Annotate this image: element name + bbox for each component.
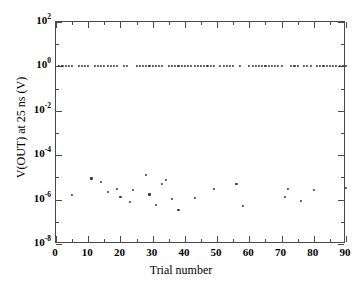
y-tick-minor bbox=[56, 89, 59, 90]
data-point bbox=[300, 200, 302, 202]
x-axis-title: Trial number bbox=[0, 263, 362, 278]
x-tick-minor bbox=[104, 22, 105, 25]
data-point bbox=[255, 65, 257, 67]
data-point bbox=[310, 65, 312, 67]
x-tick-label: 70 bbox=[264, 246, 298, 258]
x-tick-minor bbox=[137, 22, 138, 25]
y-tick-minor bbox=[56, 222, 59, 223]
y-tick-major bbox=[338, 244, 344, 245]
data-point bbox=[219, 65, 221, 67]
scatter-plot-figure: V(OUT) at 25 ns (V) Trial number 1021001… bbox=[0, 0, 362, 288]
data-point bbox=[194, 197, 196, 199]
data-point bbox=[258, 65, 260, 67]
y-tick-minor bbox=[56, 133, 59, 134]
x-tick-major bbox=[88, 236, 89, 242]
y-tick-minor bbox=[56, 44, 59, 45]
y-tick-major bbox=[338, 22, 344, 23]
data-point bbox=[132, 189, 134, 191]
data-point bbox=[119, 196, 121, 198]
data-point bbox=[71, 65, 73, 67]
data-point bbox=[123, 65, 125, 67]
x-tick-label: 40 bbox=[167, 246, 201, 258]
data-point bbox=[129, 201, 131, 203]
data-point bbox=[316, 65, 318, 67]
data-point bbox=[313, 189, 315, 191]
data-point bbox=[177, 209, 179, 211]
data-point bbox=[126, 65, 128, 67]
data-point bbox=[203, 65, 205, 67]
x-tick-major bbox=[88, 22, 89, 28]
data-point bbox=[81, 65, 83, 67]
data-point bbox=[213, 188, 215, 190]
data-point bbox=[248, 65, 250, 67]
x-tick-minor bbox=[330, 22, 331, 25]
x-tick-major bbox=[185, 236, 186, 242]
x-tick-minor bbox=[265, 239, 266, 242]
data-point bbox=[136, 65, 138, 67]
data-point bbox=[116, 65, 118, 67]
data-point bbox=[223, 65, 225, 67]
y-tick-minor bbox=[341, 44, 344, 45]
data-point bbox=[235, 183, 237, 185]
data-point bbox=[297, 65, 299, 67]
data-point bbox=[242, 205, 244, 207]
data-point bbox=[274, 65, 276, 67]
x-tick-label: 10 bbox=[70, 246, 104, 258]
data-point bbox=[190, 65, 192, 67]
data-point bbox=[264, 65, 266, 67]
data-point bbox=[161, 183, 163, 185]
x-tick-major bbox=[120, 236, 121, 242]
data-point bbox=[287, 188, 289, 190]
data-point bbox=[97, 65, 99, 67]
data-point bbox=[110, 65, 112, 67]
data-point bbox=[184, 65, 186, 67]
data-point bbox=[229, 65, 231, 67]
x-tick-minor bbox=[169, 22, 170, 25]
data-point bbox=[68, 65, 70, 67]
data-point bbox=[171, 198, 173, 200]
x-tick-minor bbox=[298, 22, 299, 25]
data-point bbox=[326, 65, 328, 67]
x-tick-major bbox=[282, 236, 283, 242]
x-tick-major bbox=[56, 236, 57, 242]
data-point bbox=[155, 65, 157, 67]
data-point bbox=[168, 65, 170, 67]
x-tick-major bbox=[249, 22, 250, 28]
data-point bbox=[290, 65, 292, 67]
data-point bbox=[78, 65, 80, 67]
data-point bbox=[107, 65, 109, 67]
data-point bbox=[306, 65, 308, 67]
data-point bbox=[239, 65, 241, 67]
data-point bbox=[252, 65, 254, 67]
data-point bbox=[152, 65, 154, 67]
y-tick-minor bbox=[56, 177, 59, 178]
data-point bbox=[113, 65, 115, 67]
data-point bbox=[177, 65, 179, 67]
data-point bbox=[332, 65, 334, 67]
x-tick-major bbox=[56, 22, 57, 28]
data-point bbox=[206, 65, 208, 67]
y-tick-major bbox=[56, 111, 62, 112]
data-point bbox=[90, 177, 92, 179]
x-tick-minor bbox=[233, 239, 234, 242]
data-point bbox=[87, 65, 89, 67]
x-tick-minor bbox=[298, 239, 299, 242]
data-point bbox=[197, 65, 199, 67]
x-tick-minor bbox=[330, 239, 331, 242]
data-point bbox=[187, 65, 189, 67]
data-point bbox=[303, 65, 305, 67]
y-tick-major bbox=[56, 244, 62, 245]
data-point bbox=[174, 65, 176, 67]
data-point bbox=[65, 65, 67, 67]
data-point bbox=[116, 188, 118, 190]
x-tick-label: 90 bbox=[328, 246, 362, 258]
data-point bbox=[107, 191, 109, 193]
data-point bbox=[148, 193, 150, 195]
x-tick-minor bbox=[72, 239, 73, 242]
data-point bbox=[181, 65, 183, 67]
data-point bbox=[271, 65, 273, 67]
y-tick-major bbox=[338, 155, 344, 156]
data-point bbox=[103, 65, 105, 67]
x-tick-minor bbox=[201, 22, 202, 25]
x-tick-minor bbox=[233, 22, 234, 25]
